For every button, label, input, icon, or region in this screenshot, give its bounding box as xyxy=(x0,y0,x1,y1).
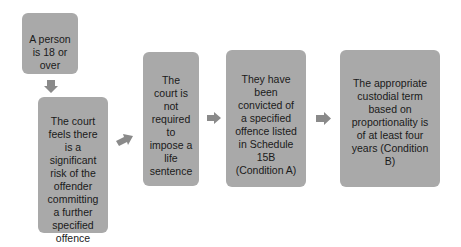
box-condition-a: They have been convicted of a specified … xyxy=(226,50,306,187)
box-condition-a-text: They have been convicted of a specified … xyxy=(235,73,297,176)
box-condition-b-text: The appropriate custodial term based on … xyxy=(352,77,428,167)
arrow-up-right-icon xyxy=(116,131,134,149)
box-risk-text: The court feels there is a significant r… xyxy=(48,115,99,244)
box-condition-b: The appropriate custodial term based on … xyxy=(340,50,440,187)
arrow-right-icon xyxy=(207,112,221,124)
box-risk-condition: The court feels there is a significant r… xyxy=(38,97,108,233)
arrow-down-icon xyxy=(44,80,58,93)
box-life-sentence: The court is not required to impose a li… xyxy=(143,52,199,186)
arrow-right-icon xyxy=(316,112,331,125)
box-age-condition: A person is 18 or over xyxy=(22,13,78,74)
box-life-text: The court is not required to impose a li… xyxy=(150,74,193,177)
box-age-text: A person is 18 or over xyxy=(29,33,70,71)
